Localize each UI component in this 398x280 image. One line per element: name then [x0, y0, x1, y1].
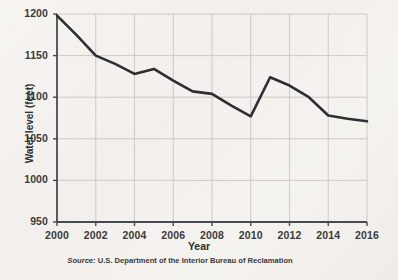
- chart-page: 95010001050110011501200 2000200220042006…: [0, 0, 398, 280]
- source-label: Source:: [67, 256, 95, 265]
- y-axis-title: Water level (feet): [24, 69, 35, 179]
- source-caption: Source: U.S. Department of the Interior …: [30, 256, 330, 265]
- y-tick-label: 1200: [8, 7, 48, 19]
- x-axis-title: Year: [0, 240, 398, 252]
- y-tick-label: 1150: [8, 49, 48, 61]
- source-text: U.S. Department of the Interior Bureau o…: [98, 256, 293, 265]
- gridlines-group: [57, 14, 367, 222]
- y-tick-label: 950: [8, 215, 48, 227]
